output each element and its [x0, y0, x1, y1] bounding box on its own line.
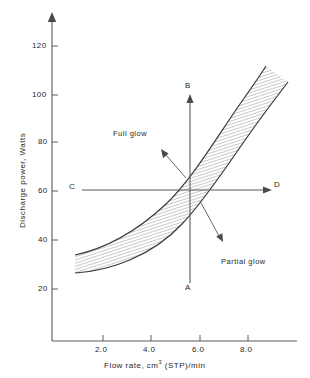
x-axis-title-suffix: (STP)/min: [162, 361, 205, 370]
y-tick-label: 60: [38, 186, 48, 195]
partial-glow-callout-line: [200, 201, 219, 236]
reference-letter-a: A: [185, 283, 191, 292]
y-tick-label: 80: [38, 137, 48, 146]
y-tick-label: 120: [32, 41, 47, 50]
full-glow-callout-line: [166, 155, 186, 178]
reference-line-cd-arrow: [263, 186, 272, 193]
x-tick-label: 4.0: [143, 345, 155, 354]
y-tick-label: 40: [38, 235, 48, 244]
y-tick-label: 100: [32, 90, 47, 99]
reference-letter-b: B: [185, 81, 191, 90]
reference-letter-d: D: [274, 180, 280, 189]
x-tick-label: 8.0: [240, 345, 252, 354]
y-axis-arrow: [48, 12, 56, 22]
discharge-power-chart: 120 100 80 60 40 20 2.0 4.0 6.0 8.0 Disc…: [0, 0, 310, 378]
partial-glow-label: Partial glow: [221, 257, 266, 266]
x-tick-label: 2.0: [95, 345, 107, 354]
y-axis-title: Discharge power, Watts: [18, 133, 27, 228]
full-glow-label: Full glow: [113, 129, 147, 138]
x-axis-title-prefix: Flow rate, cm: [104, 361, 159, 370]
x-tick-label: 6.0: [192, 345, 204, 354]
transition-band: [75, 66, 288, 273]
partial-glow-callout-arrow: [216, 233, 223, 242]
reference-line-ab-arrow: [186, 94, 193, 103]
x-axis-title: Flow rate, cm3 (STP)/min: [104, 359, 205, 370]
y-tick-label: 20: [38, 284, 48, 293]
reference-letter-c: C: [69, 182, 75, 191]
